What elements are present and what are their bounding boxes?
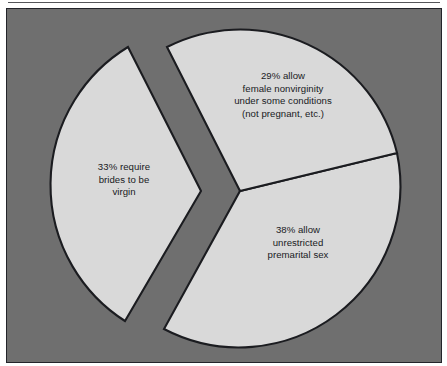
- chart-panel: 29% allow female nonvirginity under some…: [6, 8, 442, 363]
- figure: 29% allow female nonvirginity under some…: [0, 0, 447, 366]
- pie-slice-require-virgin: [50, 47, 201, 321]
- top-rule-divider: [8, 2, 440, 3]
- pie-chart-graphic: [7, 9, 441, 362]
- pie-slice-unrestricted: [164, 153, 400, 347]
